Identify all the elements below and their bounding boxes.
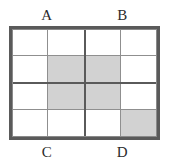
grid-cell-b-top-left (86, 30, 121, 56)
quadrant-d (85, 83, 157, 136)
grid-cell-d-top-left (86, 84, 121, 110)
grid-cell-c-top-left (13, 84, 48, 110)
grid-cell-b-bottom-left (86, 56, 121, 82)
grid-cell-c-bottom-left (13, 110, 48, 136)
quadrant-a (13, 30, 85, 83)
quadrant-label-b: B (85, 4, 161, 26)
grid-cell-a-top-right (48, 30, 83, 56)
grid-cell-a-bottom-left (13, 56, 48, 82)
grid-cell-a-bottom-right (48, 56, 83, 82)
grid-cell-b-top-right (121, 30, 156, 56)
quadrant-label-d: D (85, 141, 161, 163)
top-label-row: A B (9, 4, 160, 26)
grid-cell-a-top-left (13, 30, 48, 56)
grid-cell-c-bottom-right (48, 110, 83, 136)
bottom-label-row: C D (9, 141, 160, 163)
quadrant-label-a: A (9, 4, 85, 26)
grid-cell-b-bottom-right (121, 56, 156, 82)
grid-cell-d-bottom-right (121, 110, 156, 136)
grid-quadrant-container (12, 29, 157, 137)
quadrant-b (85, 30, 157, 83)
grid-cell-d-top-right (121, 84, 156, 110)
quadrant-grid-diagram: A B C D (0, 0, 170, 167)
grid-cell-d-bottom-left (86, 110, 121, 136)
quadrant-c (13, 83, 85, 136)
grid-outer-frame (9, 26, 160, 140)
grid-cell-c-top-right (48, 84, 83, 110)
quadrant-label-c: C (9, 141, 85, 163)
